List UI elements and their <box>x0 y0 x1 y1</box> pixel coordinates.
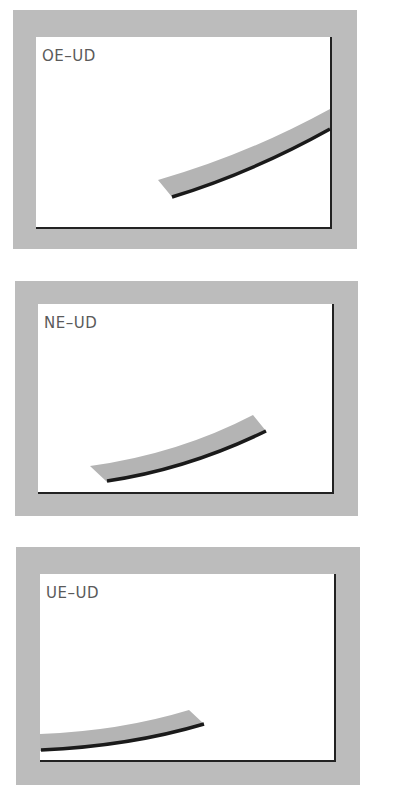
panel-ne-ud: NE–UD <box>15 281 358 516</box>
panel-oe-ud: OE–UD <box>13 10 357 249</box>
frame-ne-ud: NE–UD <box>38 304 334 494</box>
frame-ue-ud: UE–UD <box>40 574 336 762</box>
curved-band <box>38 304 332 492</box>
curved-band <box>40 574 334 760</box>
curved-band <box>36 37 330 227</box>
panel-ue-ud: UE–UD <box>16 547 360 785</box>
frame-oe-ud: OE–UD <box>36 37 332 229</box>
